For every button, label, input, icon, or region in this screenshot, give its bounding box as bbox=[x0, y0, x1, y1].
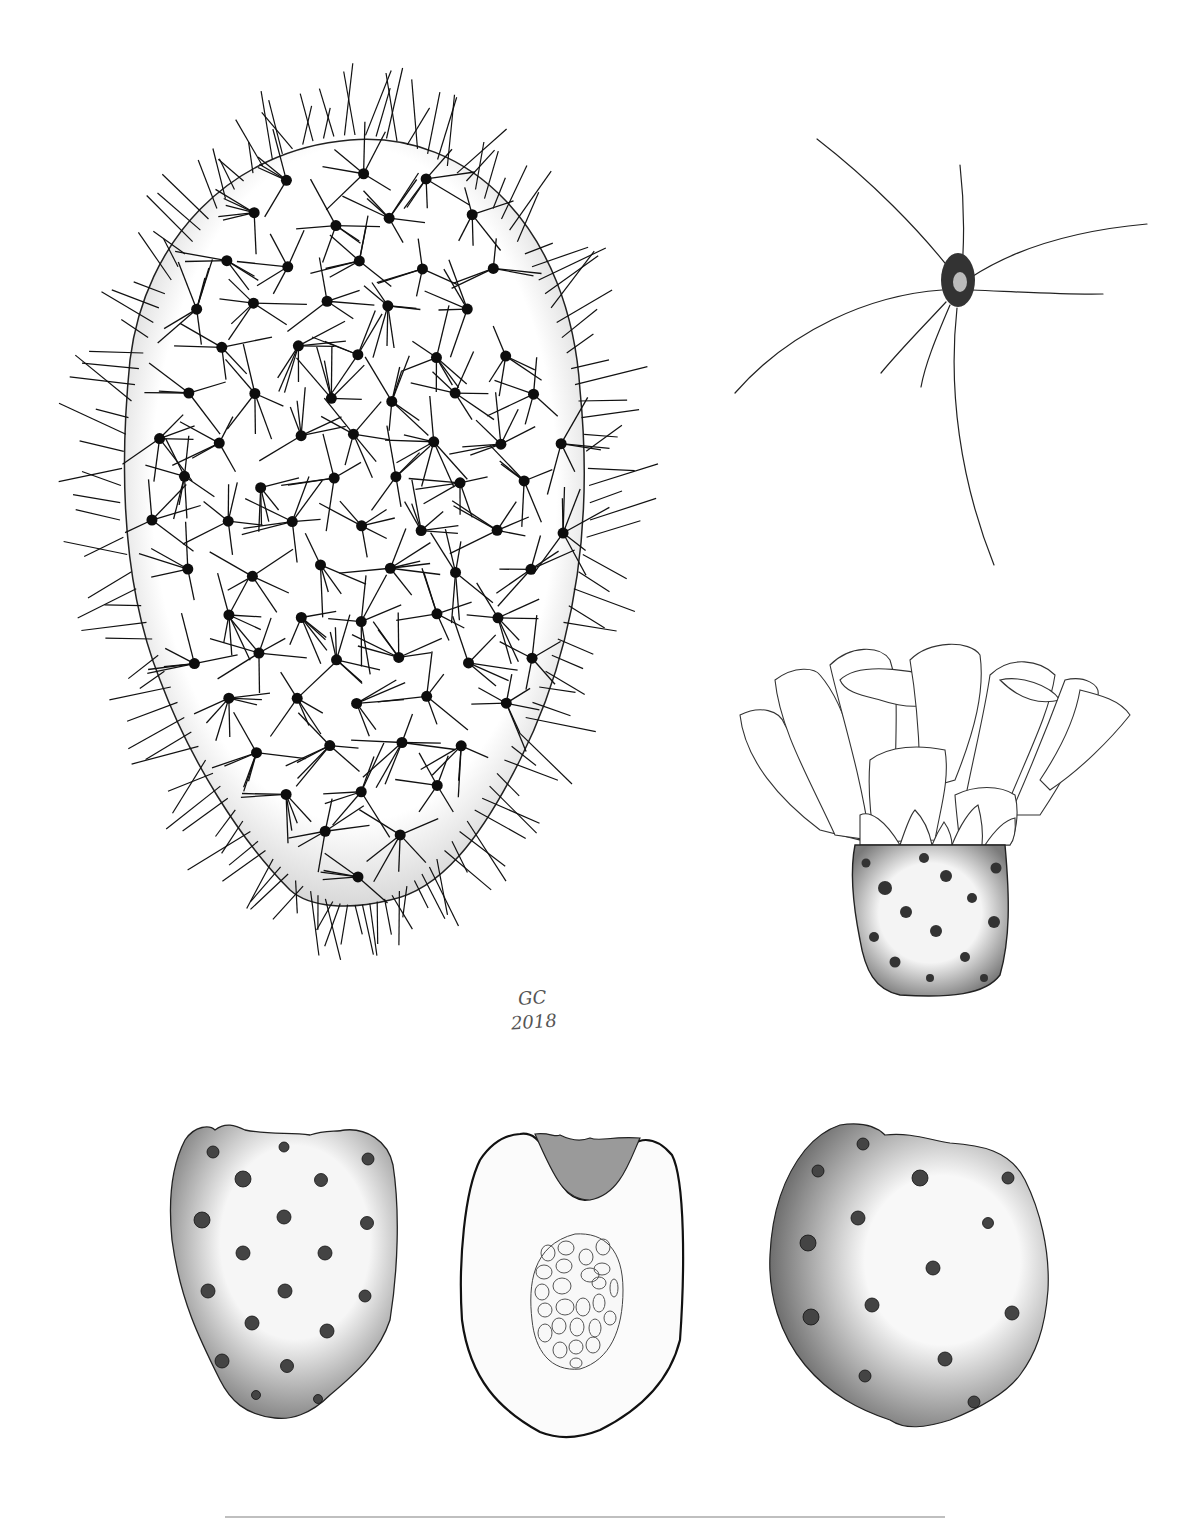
fruit-side-illustration bbox=[150, 1110, 410, 1480]
fruit-front-icon bbox=[750, 1110, 1050, 1490]
areole-illustration bbox=[720, 130, 1160, 580]
fruit-section-icon bbox=[440, 1120, 710, 1490]
artist-signature: GC 2018 bbox=[486, 983, 579, 1037]
fruit-section-illustration bbox=[440, 1120, 710, 1490]
cactus-pad-icon bbox=[50, 60, 670, 940]
fruit-side-icon bbox=[150, 1110, 410, 1480]
cactus-flower-icon bbox=[720, 600, 1170, 1010]
spine-cluster-icon bbox=[720, 130, 1160, 580]
flower-illustration bbox=[720, 600, 1170, 1010]
signature-year: 2018 bbox=[488, 1007, 579, 1037]
fruit-front-illustration bbox=[750, 1110, 1050, 1490]
scale-bar bbox=[225, 1516, 945, 1518]
cladode-illustration bbox=[50, 60, 670, 940]
